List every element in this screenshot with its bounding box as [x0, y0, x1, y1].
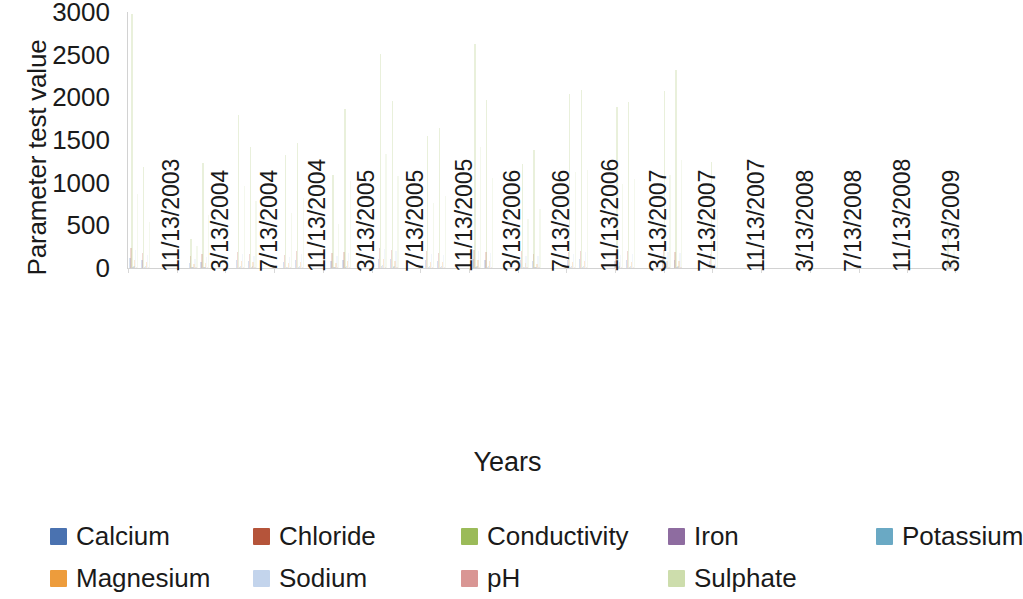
legend-item-iron[interactable]: Iron — [668, 522, 739, 550]
x-axis-tick-label: 11/13/2007 — [745, 159, 768, 272]
x-axis-tick-label: 3/13/2008 — [794, 170, 817, 272]
bar — [681, 160, 682, 268]
legend-item-label: Iron — [694, 522, 739, 550]
legend-color-swatch — [461, 528, 478, 545]
y-axis-tick-label: 3000 — [52, 0, 110, 25]
legend-item-label: Potassium — [902, 522, 1023, 550]
bar — [332, 175, 333, 268]
x-axis-tick-label: 7/13/2008 — [842, 170, 865, 272]
bar — [539, 209, 540, 268]
legend-item-label: pH — [487, 564, 520, 592]
legend-item-label: Chloride — [279, 522, 376, 550]
x-axis-tick-label: 3/13/2007 — [647, 170, 670, 272]
x-axis-tick-labels: 11/13/20033/13/20047/13/200411/13/20043/… — [0, 272, 1015, 442]
legend-item-potassium[interactable]: Potassium — [876, 522, 1023, 550]
chart-legend: CalciumChlorideConductivityIronPotassium… — [50, 522, 1015, 598]
x-axis-tick-label: 3/13/2005 — [355, 170, 378, 272]
x-axis-title: Years — [0, 447, 1015, 478]
bar — [486, 100, 487, 268]
bar — [137, 194, 138, 268]
x-axis-tick-label: 11/13/2008 — [891, 159, 914, 272]
bar — [587, 170, 588, 268]
x-axis-tick-label: 11/13/2006 — [599, 159, 622, 272]
bar — [581, 90, 582, 268]
x-axis-tick-label: 3/13/2006 — [501, 170, 524, 272]
bar — [202, 163, 203, 268]
x-axis-tick-label: 7/13/2007 — [696, 170, 719, 272]
y-axis-tick-label: 1000 — [52, 170, 110, 196]
legend-color-swatch — [876, 528, 893, 545]
legend-color-swatch — [50, 570, 67, 587]
bar — [533, 150, 534, 268]
bar — [385, 154, 386, 268]
legend-color-swatch — [461, 570, 478, 587]
legend-item-conductivity[interactable]: Conductivity — [461, 522, 629, 550]
legend-item-label: Sulphate — [694, 564, 797, 592]
bar — [149, 222, 150, 268]
y-axis-tick-labels: 300025002000150010005000 — [0, 0, 118, 290]
bar — [297, 143, 298, 268]
bar — [439, 128, 440, 268]
bar — [344, 109, 345, 268]
x-axis-tick-label: 11/13/2005 — [453, 159, 476, 272]
bar — [480, 147, 481, 268]
legend-item-magnesium[interactable]: Magnesium — [50, 564, 210, 592]
bar — [392, 101, 393, 268]
legend-item-label: Sodium — [279, 564, 367, 592]
bar — [634, 179, 635, 268]
x-axis-tick-label: 7/13/2006 — [550, 170, 573, 272]
bar — [527, 219, 528, 268]
bar — [675, 70, 676, 268]
legend-color-swatch — [253, 528, 270, 545]
x-axis-tick-label: 7/13/2005 — [404, 170, 427, 272]
x-axis-tick-label: 11/13/2003 — [160, 159, 183, 272]
bar — [285, 155, 286, 268]
bar — [244, 186, 245, 268]
legend-item-label: Calcium — [76, 522, 170, 550]
bar — [196, 246, 197, 268]
y-axis-tick-label: 2500 — [52, 42, 110, 68]
legend-color-swatch — [253, 570, 270, 587]
bar — [250, 147, 251, 268]
bar — [492, 178, 493, 268]
plot-area — [127, 12, 956, 269]
bar — [445, 196, 446, 268]
bar — [338, 224, 339, 268]
bar — [575, 172, 576, 268]
bar — [143, 167, 144, 268]
bar — [238, 115, 239, 268]
legend-item-label: Magnesium — [76, 564, 210, 592]
bar — [350, 181, 351, 268]
bar — [190, 239, 191, 268]
bar — [433, 203, 434, 268]
bar — [131, 14, 132, 268]
legend-color-swatch — [50, 528, 67, 545]
bar — [380, 54, 381, 268]
legend-item-chloride[interactable]: Chloride — [253, 522, 376, 550]
x-axis-tick-label: 3/13/2009 — [940, 170, 963, 272]
x-axis-tick-label: 3/13/2004 — [209, 170, 232, 272]
legend-item-calcium[interactable]: Calcium — [50, 522, 170, 550]
bar — [397, 176, 398, 268]
x-axis-tick-label: 11/13/2004 — [306, 159, 329, 272]
bar — [291, 213, 292, 268]
legend-item-sodium[interactable]: Sodium — [253, 564, 367, 592]
legend-color-swatch — [668, 570, 685, 587]
legend-item-sulphate[interactable]: Sulphate — [668, 564, 797, 592]
y-axis-tick-label: 1500 — [52, 127, 110, 153]
bar — [628, 102, 629, 268]
bars-layer — [128, 12, 956, 268]
x-axis-tick-label: 7/13/2004 — [258, 170, 281, 272]
y-axis-tick-label: 2000 — [52, 84, 110, 110]
y-axis-tick-label: 500 — [67, 212, 110, 238]
legend-color-swatch — [668, 528, 685, 545]
legend-item-label: Conductivity — [487, 522, 629, 550]
legend-item-ph[interactable]: pH — [461, 564, 520, 592]
